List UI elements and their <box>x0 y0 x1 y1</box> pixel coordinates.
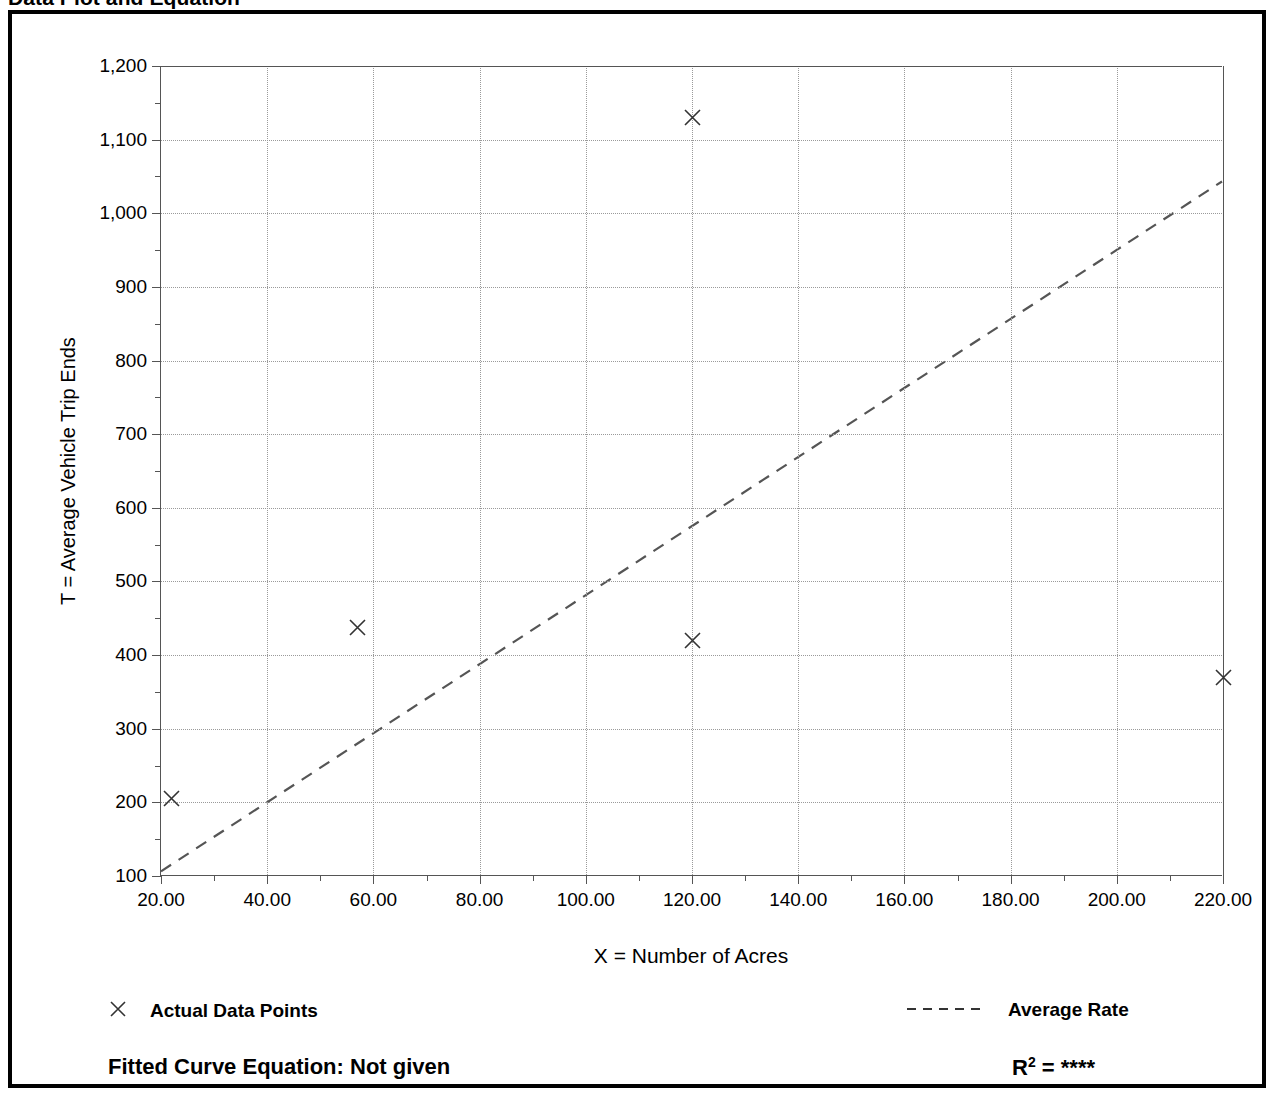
x-axis-tick <box>1223 875 1224 884</box>
y-axis-tick-minor <box>155 324 161 325</box>
legend-label-average-rate: Average Rate <box>1008 999 1129 1021</box>
y-axis-tick-label: 1,200 <box>99 55 147 77</box>
x-axis-tick <box>1011 875 1012 884</box>
data-point-marker <box>683 631 702 650</box>
x-axis-tick-label: 40.00 <box>243 889 291 911</box>
y-axis-tick-minor <box>155 397 161 398</box>
y-axis-tick <box>152 361 161 362</box>
gridline-horizontal <box>161 581 1222 582</box>
y-axis-tick <box>152 66 161 67</box>
x-axis-tick-label: 140.00 <box>769 889 827 911</box>
x-axis-title: X = Number of Acres <box>160 944 1222 968</box>
x-axis-tick-label: 220.00 <box>1194 889 1252 911</box>
y-axis-tick-minor <box>155 176 161 177</box>
x-axis-tick-label: 160.00 <box>875 889 933 911</box>
x-axis-tick-minor <box>533 875 534 881</box>
x-axis-tick-minor <box>851 875 852 881</box>
y-axis-tick <box>152 655 161 656</box>
y-axis-tick-minor <box>155 692 161 693</box>
gridline-horizontal <box>161 655 1222 656</box>
gridline-vertical <box>1117 66 1118 875</box>
r-squared-superscript: 2 <box>1028 1054 1036 1070</box>
fitted-curve-equation: Fitted Curve Equation: Not given <box>108 1054 450 1080</box>
x-axis-tick <box>480 875 481 884</box>
y-axis-tick-label: 200 <box>115 791 147 813</box>
x-axis-tick-minor <box>1170 875 1171 881</box>
x-axis-tick-minor <box>320 875 321 881</box>
x-axis-tick-label: 60.00 <box>350 889 398 911</box>
x-axis-tick-label: 180.00 <box>982 889 1040 911</box>
x-axis-tick-label: 20.00 <box>137 889 185 911</box>
y-axis-tick-minor <box>155 250 161 251</box>
x-axis-tick <box>373 875 374 884</box>
y-axis-tick <box>152 434 161 435</box>
data-point-marker <box>1214 668 1233 687</box>
y-axis-tick-minor <box>155 545 161 546</box>
data-point-marker <box>683 108 702 127</box>
y-axis-tick-label: 400 <box>115 644 147 666</box>
y-axis-tick-minor <box>155 766 161 767</box>
y-axis-tick-minor <box>155 103 161 104</box>
y-axis-tick-label: 100 <box>115 865 147 887</box>
x-axis-tick-label: 80.00 <box>456 889 504 911</box>
gridline-vertical <box>480 66 481 875</box>
gridline-vertical <box>586 66 587 875</box>
x-axis-tick <box>798 875 799 884</box>
y-axis-tick-minor <box>155 839 161 840</box>
r-squared-value: R2 = **** <box>1012 1054 1095 1081</box>
x-axis-tick <box>1117 875 1118 884</box>
gridline-vertical <box>904 66 905 875</box>
plot-right-border <box>1223 66 1224 875</box>
gridline-horizontal <box>161 140 1222 141</box>
y-axis-tick <box>152 508 161 509</box>
y-axis-tick-label: 500 <box>115 570 147 592</box>
y-axis-tick-minor <box>155 618 161 619</box>
y-axis-tick-minor <box>155 471 161 472</box>
gridline-horizontal <box>161 508 1222 509</box>
gridline-vertical <box>373 66 374 875</box>
y-axis-tick-label: 700 <box>115 423 147 445</box>
x-axis-tick <box>267 875 268 884</box>
chart-frame: 20.0040.0060.0080.00100.00120.00140.0016… <box>8 10 1266 1088</box>
x-axis-tick-minor <box>958 875 959 881</box>
y-axis-tick-label: 1,100 <box>99 129 147 151</box>
chart-footer: Fitted Curve Equation: Not given R2 = **… <box>12 1054 1270 1090</box>
page-title: Data Plot and Equation <box>8 0 240 10</box>
legend-label-data-points: Actual Data Points <box>150 1000 318 1022</box>
y-axis-tick-label: 1,000 <box>99 202 147 224</box>
y-axis-tick <box>152 581 161 582</box>
chart-canvas: 20.0040.0060.0080.00100.00120.00140.0016… <box>12 14 1270 1092</box>
gridline-vertical <box>1011 66 1012 875</box>
legend-item-average-rate: Average Rate <box>906 999 1129 1021</box>
y-axis-tick-label: 900 <box>115 276 147 298</box>
gridline-horizontal <box>161 729 1222 730</box>
data-point-marker <box>162 789 181 808</box>
y-axis-tick <box>152 802 161 803</box>
x-axis-tick-minor <box>427 875 428 881</box>
x-axis-tick-minor <box>1064 875 1065 881</box>
y-axis-tick-label: 600 <box>115 497 147 519</box>
gridline-vertical <box>267 66 268 875</box>
gridline-horizontal <box>161 287 1222 288</box>
gridline-horizontal <box>161 361 1222 362</box>
y-axis-tick-label: 300 <box>115 718 147 740</box>
x-axis-tick <box>161 875 162 884</box>
x-axis-tick-label: 200.00 <box>1088 889 1146 911</box>
y-axis-tick <box>152 729 161 730</box>
x-axis-tick <box>692 875 693 884</box>
plot-area: 20.0040.0060.0080.00100.00120.00140.0016… <box>160 66 1222 876</box>
gridline-vertical <box>692 66 693 875</box>
legend-item-data-points: Actual Data Points <box>108 999 318 1023</box>
r-squared-result: = **** <box>1042 1055 1095 1080</box>
chart-legend: Actual Data Points Average Rate <box>12 999 1270 1033</box>
x-axis-tick <box>586 875 587 884</box>
y-axis-tick <box>152 876 161 877</box>
x-axis-tick-minor <box>745 875 746 881</box>
y-axis-tick-label: 800 <box>115 350 147 372</box>
plot-top-border <box>161 66 1222 67</box>
y-axis-tick <box>152 140 161 141</box>
gridline-horizontal <box>161 802 1222 803</box>
y-axis-tick <box>152 213 161 214</box>
data-point-marker <box>348 618 367 637</box>
y-axis-tick <box>152 287 161 288</box>
